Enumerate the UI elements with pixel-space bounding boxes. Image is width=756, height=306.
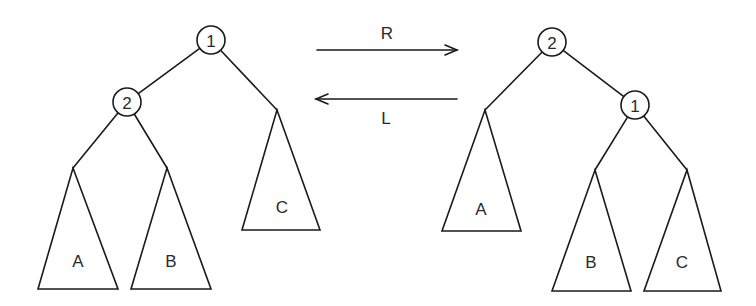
node-2-label: 2 bbox=[547, 34, 556, 53]
right-tree: ABC21 bbox=[442, 28, 721, 291]
subtree-label-c: C bbox=[676, 253, 688, 272]
subtree-triangle-a bbox=[38, 168, 118, 289]
left_tree-edge-3 bbox=[134, 114, 167, 168]
subtree-triangle-c bbox=[644, 170, 721, 291]
right_tree-edge-0 bbox=[485, 52, 542, 110]
node-1-label: 1 bbox=[206, 32, 215, 51]
left_tree-edge-0 bbox=[138, 48, 199, 93]
left_tree-edge-2 bbox=[73, 113, 118, 168]
right_tree-edge-1 bbox=[563, 50, 624, 96]
node-1-label: 1 bbox=[630, 97, 639, 116]
left-tree: ABC12 bbox=[38, 26, 320, 289]
subtree-triangle-b bbox=[131, 168, 211, 289]
subtree-label-a: A bbox=[72, 252, 84, 271]
rotate-right-label: R bbox=[381, 24, 393, 43]
subtree-label-a: A bbox=[475, 200, 487, 219]
rotation-arrows: RL bbox=[316, 24, 457, 128]
left_tree-edge-1 bbox=[221, 50, 277, 110]
tree-rotation-diagram: ABC12 RL ABC21 bbox=[0, 0, 756, 306]
diagram-svg: ABC12 RL ABC21 bbox=[0, 0, 756, 306]
subtree-triangle-b bbox=[552, 170, 631, 291]
node-2-label: 2 bbox=[122, 94, 131, 113]
right_tree-edge-2 bbox=[595, 117, 628, 170]
subtree-label-b: B bbox=[165, 252, 176, 271]
subtree-label-c: C bbox=[276, 198, 288, 217]
subtree-label-b: B bbox=[585, 253, 596, 272]
right_tree-edge-3 bbox=[644, 116, 687, 170]
rotate-left-label: L bbox=[381, 109, 390, 128]
